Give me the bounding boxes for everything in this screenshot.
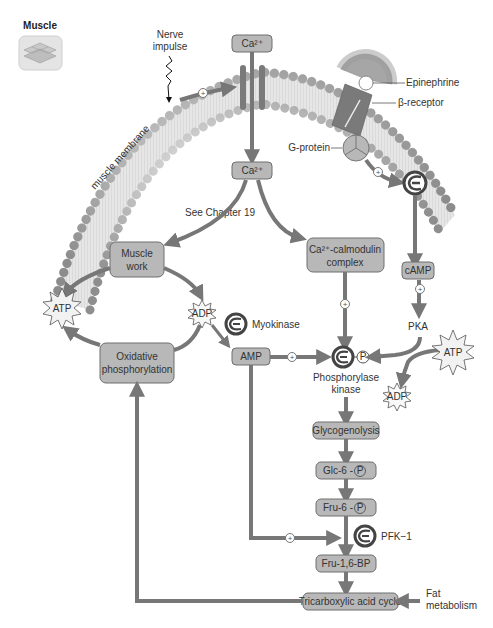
pfk-1-label: PFK−1	[381, 531, 412, 542]
fat-metabolism-label: Fat	[426, 588, 441, 599]
svg-text:complex: complex	[326, 257, 363, 268]
atp-burst-right: ATP	[432, 330, 474, 375]
fru-1-6-bp-box: Fru-1,6-BP	[316, 555, 376, 572]
svg-text:+: +	[201, 89, 206, 98]
svg-text:Muscle: Muscle	[121, 248, 153, 259]
g-protein-label: G-protein	[288, 142, 330, 153]
svg-text:Fru-1,6-BP: Fru-1,6-BP	[322, 558, 371, 569]
svg-text:phosphorylation: phosphorylation	[102, 364, 173, 375]
svg-text:ADP: ADP	[192, 308, 213, 319]
myokinase-label: Myokinase	[252, 319, 300, 330]
myokinase-enzyme: Myokinase	[226, 314, 300, 334]
muscle-work-box: Muscle work	[110, 242, 164, 277]
ca-calmodulin-complex-box: Ca²⁺-calmodulin complex	[307, 238, 384, 272]
svg-text:+: +	[376, 168, 381, 177]
svg-text:ATP: ATP	[53, 303, 72, 314]
adp-burst-left: ADP	[188, 300, 216, 328]
muscle-header: Muscle	[19, 20, 62, 70]
muscle-tissue-icon	[19, 36, 62, 70]
nerve-signal-zigzag-icon	[166, 56, 172, 100]
svg-text:ADP: ADP	[387, 391, 408, 402]
fru-6-p-box: Fru-6 - P	[316, 499, 376, 516]
epinephrine-receptor-complex: Epinephrine β-receptor	[332, 54, 460, 136]
epinephrine-molecule-icon	[359, 76, 373, 90]
amp-box: AMP	[232, 348, 270, 365]
adp-burst-right: ADP	[383, 383, 411, 411]
svg-text:ATP: ATP	[444, 347, 463, 358]
pfk-1-enzyme: PFK−1	[355, 526, 412, 546]
camp-box: cAMP	[402, 262, 434, 279]
svg-text:impulse: impulse	[153, 41, 188, 52]
pka-label: PKA	[408, 321, 428, 332]
svg-text:Glc-6 -: Glc-6 -	[323, 465, 353, 476]
svg-text:Ca²⁺: Ca²⁺	[241, 38, 262, 49]
svg-text:Tricarboxylic acid cycle: Tricarboxylic acid cycle	[299, 596, 402, 607]
svg-text:+: +	[290, 353, 295, 362]
tricarboxylic-acid-cycle-box: Tricarboxylic acid cycle	[299, 593, 402, 610]
svg-text:Ca²⁺: Ca²⁺	[241, 165, 262, 176]
svg-text:Ca²⁺-calmodulin: Ca²⁺-calmodulin	[309, 244, 381, 255]
svg-text:Glycogenolysis: Glycogenolysis	[312, 425, 379, 436]
svg-text:P: P	[357, 502, 364, 513]
svg-text:kinase: kinase	[332, 384, 361, 395]
fat-metabolism-label-2: metabolism	[426, 600, 477, 611]
ca-ion-extracellular-box: Ca²⁺	[232, 35, 272, 52]
oxidative-phosphorylation-box: Oxidative phosphorylation	[100, 343, 174, 383]
glycogenolysis-box: Glycogenolysis	[312, 422, 379, 439]
nerve-impulse: Nerve impulse +	[153, 29, 230, 103]
svg-text:AMP: AMP	[240, 351, 262, 362]
phosphorylase-kinase: P Phosphorylase kinase	[313, 347, 380, 395]
beta-receptor-label: β-receptor	[398, 97, 444, 108]
svg-text:cAMP: cAMP	[405, 265, 432, 276]
svg-text:+: +	[288, 534, 293, 543]
svg-text:Oxidative: Oxidative	[116, 351, 158, 362]
ca-ion-intracellular-box: Ca²⁺	[232, 162, 272, 179]
svg-text:P: P	[360, 351, 367, 362]
muscle-glycogen-regulation-diagram: Muscle muscle membrane Nerve impulse +	[0, 0, 493, 628]
glc-6-p-box: Glc-6 - P	[316, 462, 376, 479]
svg-text:Nerve: Nerve	[157, 29, 184, 40]
svg-text:+: +	[343, 300, 348, 309]
svg-text:Phosphorylase: Phosphorylase	[313, 372, 380, 383]
svg-text:P: P	[357, 465, 364, 476]
svg-text:Fru-6 -: Fru-6 -	[323, 502, 353, 513]
epinephrine-label: Epinephrine	[406, 77, 460, 88]
svg-text:+: +	[418, 285, 423, 294]
svg-text:work: work	[125, 261, 148, 272]
adenylyl-cyclase-enzyme-icon	[404, 172, 426, 194]
muscle-title: Muscle	[23, 20, 57, 31]
